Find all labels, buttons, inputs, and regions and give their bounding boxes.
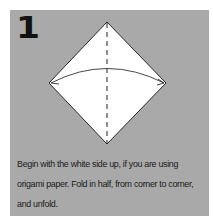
caption-line: origami paper. Fold in half, from corner…	[17, 174, 194, 194]
caption-line: Begin with the white side up, if you are…	[17, 154, 194, 174]
origami-diagram	[10, 10, 209, 160]
step-caption: Begin with the white side up, if you are…	[17, 154, 194, 214]
instruction-panel: 1 Begin with the white side up, if you a…	[10, 10, 209, 216]
caption-line: and unfold.	[17, 194, 194, 214]
